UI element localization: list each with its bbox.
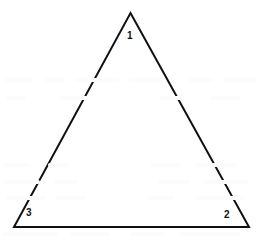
triangle-diagram: 1 2 3	[0, 0, 263, 244]
vertex-label-1: 1	[127, 31, 133, 41]
triangle-outline	[14, 13, 249, 227]
vertex-label-2: 2	[224, 210, 230, 220]
vertex-label-3: 3	[26, 208, 32, 218]
